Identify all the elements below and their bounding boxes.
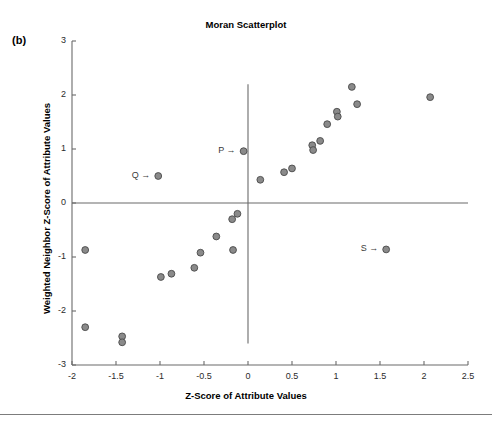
y-tick-label: 1 (40, 143, 66, 153)
y-tick-label: 3 (40, 35, 66, 45)
point-annotation-p: P → (178, 145, 236, 155)
data-point (317, 138, 324, 145)
x-tick-label: -1.5 (96, 371, 136, 381)
footer-divider (0, 414, 492, 415)
data-point (229, 216, 236, 223)
y-tick-label: 2 (40, 89, 66, 99)
x-tick-label: 0.5 (272, 371, 312, 381)
x-tick-label: -1 (140, 371, 180, 381)
point-annotation-q: Q → (92, 170, 150, 180)
data-point (119, 339, 126, 346)
data-point (257, 176, 264, 183)
data-point (310, 147, 317, 154)
y-tick-label: -2 (40, 305, 66, 315)
y-tick-label: 0 (40, 197, 66, 207)
data-point (191, 264, 198, 271)
plot-area (0, 0, 492, 425)
data-point (289, 165, 296, 172)
data-point (82, 247, 89, 254)
moran-scatterplot-figure: (b) Moran Scatterplot Weighted Neighbor … (0, 0, 492, 425)
data-point (230, 247, 237, 254)
x-tick-label: -2 (52, 371, 92, 381)
x-tick-label: 2 (404, 371, 444, 381)
data-point (383, 246, 390, 253)
data-point (240, 148, 247, 155)
data-points-group (82, 84, 434, 346)
data-point (168, 270, 175, 277)
x-tick-label: 0 (228, 371, 268, 381)
data-point (234, 210, 241, 217)
y-tick-label: -1 (40, 251, 66, 261)
data-point (82, 324, 89, 331)
x-tick-label: 1 (316, 371, 356, 381)
data-point (334, 113, 341, 120)
data-point (213, 233, 220, 240)
x-tick-label: 2.5 (448, 371, 488, 381)
y-tick-label: -3 (40, 359, 66, 369)
data-point (324, 121, 331, 128)
data-point (157, 274, 164, 281)
point-annotation-s: S → (320, 243, 378, 253)
data-point (427, 94, 434, 101)
data-point (348, 84, 355, 91)
x-tick-label: -0.5 (184, 371, 224, 381)
data-point (197, 249, 204, 256)
data-point (281, 169, 288, 176)
reference-lines-group (72, 84, 468, 343)
data-point (155, 173, 162, 180)
x-tick-label: 1.5 (360, 371, 400, 381)
data-point (354, 101, 361, 108)
